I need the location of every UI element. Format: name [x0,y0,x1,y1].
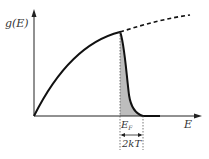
x-axis-label: E [183,118,192,131]
y-axis-arrow-icon [32,9,37,17]
x-axis-arrow-icon [194,114,202,119]
distribution-curve [34,32,160,116]
fermi-energy-label: EF [120,119,133,131]
dos-dashed-curve [120,15,190,32]
width-label: 2kT [121,138,142,149]
width-arrow-left-icon [121,133,126,137]
density-of-states-diagram: g(E) E EF 2kT [0,0,209,159]
y-axis-label: g(E) [5,17,29,30]
width-arrow-right-icon [138,133,143,137]
